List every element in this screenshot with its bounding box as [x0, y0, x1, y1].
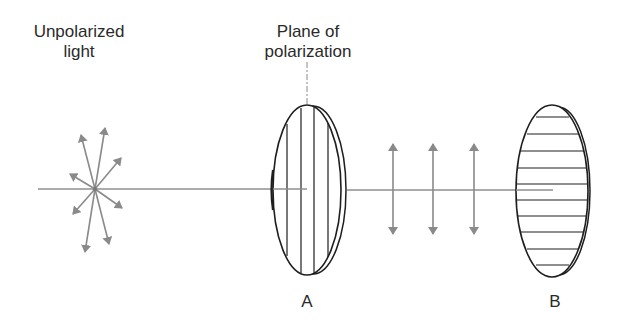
polarizer-a-label: A [292, 292, 322, 312]
polarization-diagram: Unpolarized light Plane of polarization [0, 0, 626, 332]
star-center-dot [93, 187, 97, 191]
diagram-graphics [0, 0, 626, 332]
polarizer-a [272, 105, 347, 275]
polarizer-b-label: B [540, 292, 570, 312]
polarized-arrows-icon [393, 144, 474, 234]
polarizer-b [516, 105, 590, 277]
